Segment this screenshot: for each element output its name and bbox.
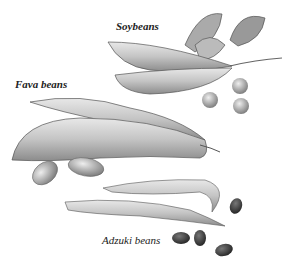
adzuki-pod-lower [65,200,225,226]
label-fava-beans: Fava beans [15,78,67,90]
soybean-pod-lower [115,68,232,94]
illustration-drawing [0,0,291,267]
label-soybeans: Soybeans [116,20,159,32]
label-adzuki-beans: Adzuki beans [102,234,160,246]
soybean-leaves [185,14,265,60]
bean-illustration: Soybeans Fava beans Adzuki beans [0,0,291,267]
